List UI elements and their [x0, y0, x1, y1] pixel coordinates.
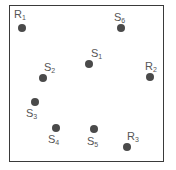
label-s4: S4 [48, 134, 59, 146]
point-r2 [146, 73, 154, 81]
label-s3: S3 [26, 108, 37, 120]
label-r3: R3 [127, 131, 139, 143]
label-r1: R1 [14, 9, 26, 21]
point-s1 [85, 60, 93, 68]
label-s5: S5 [87, 136, 98, 148]
label-s2: S2 [44, 62, 55, 74]
point-s6 [117, 24, 125, 32]
label-s6: S6 [114, 12, 125, 24]
point-s3 [31, 98, 39, 106]
label-s1: S1 [91, 48, 102, 60]
point-s5 [90, 125, 98, 133]
point-r3 [123, 143, 131, 151]
point-r1 [18, 24, 26, 32]
point-s2 [39, 74, 47, 82]
label-r2: R2 [145, 61, 157, 73]
point-s4 [52, 124, 60, 132]
